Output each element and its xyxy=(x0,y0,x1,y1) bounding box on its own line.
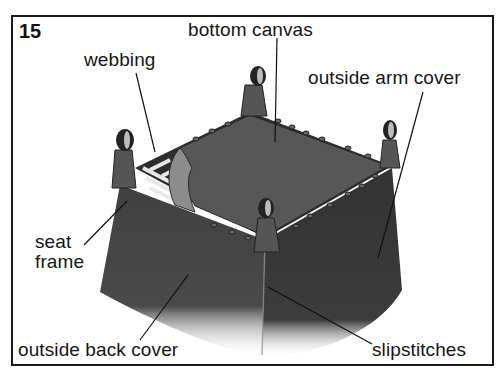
label-seat: seat xyxy=(35,232,71,251)
castor-right xyxy=(380,120,400,168)
label-outside-back-cover: outside back cover xyxy=(18,340,178,359)
castor-back xyxy=(241,66,267,116)
label-bottom-canvas: bottom canvas xyxy=(188,20,313,39)
chair-illustration xyxy=(0,0,497,371)
castor-left xyxy=(112,129,136,188)
label-slipstitches: slipstitches xyxy=(372,340,466,359)
label-webbing: webbing xyxy=(84,50,155,69)
label-frame: frame xyxy=(35,252,84,271)
figure-number: 15 xyxy=(19,20,41,43)
label-outside-arm-cover: outside arm cover xyxy=(308,68,461,87)
